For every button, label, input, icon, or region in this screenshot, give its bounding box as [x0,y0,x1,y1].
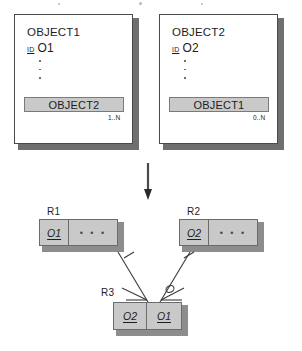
connector-layer [0,0,302,351]
diagram-canvas: OBJECT1 ID O1 OBJECT2 1..N OBJECT2 ID O2 [0,0,302,351]
connector-r1-r3 [118,252,148,302]
one-tick-icon [124,252,134,258]
connector-r2-r3 [160,252,194,302]
arrow-down-icon [144,163,152,200]
